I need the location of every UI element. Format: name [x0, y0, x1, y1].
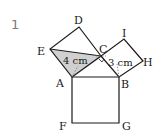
label-d: D: [74, 14, 83, 27]
label-i: I: [122, 27, 126, 40]
geometry-figure: 1 D E C I H A B F G 4 cm 3 cm: [0, 0, 163, 138]
problem-number: 1: [11, 17, 19, 32]
label-e: E: [37, 45, 45, 58]
label-a: A: [55, 77, 65, 90]
measure-bc: 3 cm: [108, 57, 133, 68]
label-c: C: [99, 43, 107, 56]
right-angle-mark-c: [99, 59, 104, 62]
measure-ac: 4 cm: [63, 55, 88, 66]
label-b: B: [121, 78, 129, 91]
label-f: F: [59, 120, 67, 133]
label-h: H: [143, 56, 153, 69]
label-g: G: [122, 120, 131, 133]
square-abgf: [72, 77, 119, 123]
